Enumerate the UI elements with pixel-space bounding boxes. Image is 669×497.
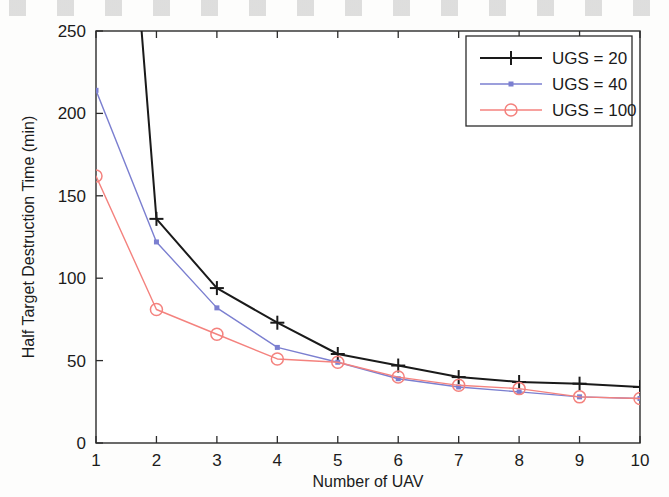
y-axis-title: Half Target Destruction Time (min) bbox=[20, 116, 37, 358]
x-tick-label: 9 bbox=[575, 451, 584, 470]
chart-figure: 12345678910 050100150200250 Number of UA… bbox=[0, 0, 669, 497]
y-tick-label: 50 bbox=[67, 352, 86, 371]
y-tick-label: 250 bbox=[58, 22, 86, 41]
legend-label-1: UGS = 20 bbox=[552, 49, 627, 68]
legend-label-3: UGS = 100 bbox=[552, 101, 637, 120]
x-tick-label: 7 bbox=[454, 451, 463, 470]
x-axis-tick-labels: 12345678910 bbox=[91, 451, 649, 470]
marker-dot bbox=[275, 345, 280, 350]
legend-marker-dot bbox=[509, 82, 514, 87]
chart-legend: UGS = 20UGS = 40UGS = 100 bbox=[466, 36, 637, 126]
x-tick-label: 1 bbox=[91, 451, 100, 470]
y-tick-label: 200 bbox=[58, 104, 86, 123]
x-tick-label: 10 bbox=[631, 451, 650, 470]
y-tick-label: 100 bbox=[58, 269, 86, 288]
x-tick-label: 8 bbox=[514, 451, 523, 470]
x-tick-label: 3 bbox=[212, 451, 221, 470]
x-tick-label: 5 bbox=[333, 451, 342, 470]
marker-dot bbox=[94, 88, 99, 93]
y-axis-tick-labels: 050100150200250 bbox=[58, 22, 86, 453]
chart-plot-area: 12345678910 050100150200250 Number of UA… bbox=[0, 0, 669, 497]
legend-label-2: UGS = 40 bbox=[552, 75, 627, 94]
x-axis-title: Number of UAV bbox=[313, 473, 424, 490]
marker-dot bbox=[154, 239, 159, 244]
y-tick-label: 150 bbox=[58, 187, 86, 206]
x-tick-label: 2 bbox=[152, 451, 161, 470]
marker-dot bbox=[214, 305, 219, 310]
y-tick-label: 0 bbox=[77, 434, 86, 453]
x-tick-label: 6 bbox=[393, 451, 402, 470]
x-tick-label: 4 bbox=[273, 451, 282, 470]
